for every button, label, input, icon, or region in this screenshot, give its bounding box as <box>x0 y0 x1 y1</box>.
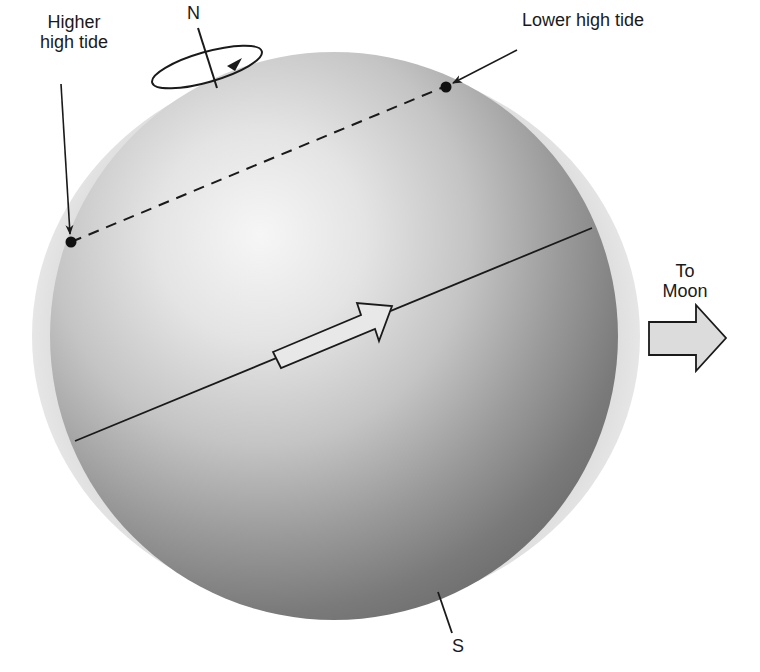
higher-high-tide-label: Higher high tide <box>26 12 122 52</box>
south-pole-label: S <box>452 636 464 656</box>
lower-high-tide-pointer <box>453 50 517 83</box>
south-axis-line <box>438 592 452 633</box>
north-pole-label: N <box>187 3 200 23</box>
tidal-diagram <box>0 0 760 672</box>
higher-high-tide-label-line1: Higher <box>26 12 122 32</box>
moon-direction-arrow-icon <box>649 305 726 371</box>
higher-high-tide-point <box>66 237 77 248</box>
to-moon-label: To Moon <box>650 261 720 301</box>
to-moon-label-line1: To <box>650 261 720 281</box>
to-moon-label-line2: Moon <box>650 281 720 301</box>
lower-high-tide-label: Lower high tide <box>522 10 644 30</box>
lower-high-tide-point <box>441 82 452 93</box>
higher-high-tide-label-line2: high tide <box>26 32 122 52</box>
